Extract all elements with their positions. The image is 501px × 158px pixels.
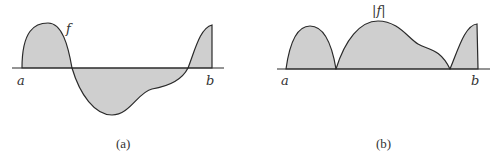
abs-area-hump-2 [336,21,450,69]
negative-area-region [72,68,188,115]
positive-end-region [188,25,212,68]
caption-a: (a) [116,136,130,151]
panel-a: f a b (a) [12,21,224,151]
panel-b: |f| a b (b) [277,3,490,151]
right-endpoint-label: b [471,73,479,88]
curve-label-f: f [65,21,73,36]
left-endpoint-label: a [17,73,25,88]
signed-area-region [22,23,72,68]
caption-b: (b) [376,136,391,151]
right-endpoint-label: b [206,73,214,88]
curve-label-abs-f: |f| [372,3,386,18]
abs-area-hump-1 [286,26,336,69]
left-endpoint-label: a [281,73,289,88]
abs-area-hump-3 [450,24,478,69]
figure: f a b (a) |f| a b (b) [0,0,501,158]
